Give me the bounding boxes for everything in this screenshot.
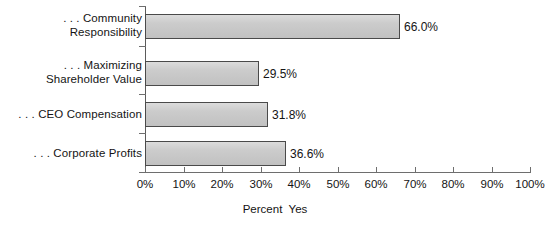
xtick-label: 30% bbox=[249, 178, 272, 190]
category-label-maximizing-shareholder-value: . . . Maximizing Shareholder Value bbox=[46, 59, 142, 86]
bar-community-responsibility bbox=[145, 14, 400, 39]
value-tick bbox=[376, 167, 377, 173]
category-label-corporate-profits: . . . Corporate Profits bbox=[34, 147, 142, 161]
xtick-label: 40% bbox=[287, 178, 310, 190]
xtick-label: 60% bbox=[364, 178, 387, 190]
category-label-ceo-compensation: . . . CEO Compensation bbox=[18, 108, 142, 122]
value-tick bbox=[261, 167, 262, 173]
xtick-label: 10% bbox=[172, 178, 195, 190]
xtick-label: 20% bbox=[210, 178, 233, 190]
value-tick bbox=[492, 167, 493, 173]
x-axis-title: Percent Yes bbox=[0, 203, 550, 216]
value-tick bbox=[222, 167, 223, 173]
value-tick bbox=[415, 167, 416, 173]
category-label-community-responsibility: . . . Community Responsibility bbox=[63, 12, 142, 39]
value-tick bbox=[338, 167, 339, 173]
xtick-label: 50% bbox=[326, 178, 349, 190]
bar-ceo-compensation bbox=[145, 102, 268, 127]
bar-corporate-profits bbox=[145, 141, 286, 166]
value-tick bbox=[184, 167, 185, 173]
category-label-line: . . . Corporate Profits bbox=[34, 147, 142, 161]
value-tick bbox=[145, 167, 146, 173]
category-tick bbox=[139, 6, 146, 7]
xtick-label: 70% bbox=[403, 178, 426, 190]
xtick-label: 90% bbox=[480, 178, 503, 190]
category-label-line: Shareholder Value bbox=[46, 73, 142, 87]
category-label-line: . . . CEO Compensation bbox=[18, 108, 142, 122]
bar-chart: . . . Community Responsibility . . . Max… bbox=[0, 0, 550, 227]
category-tick bbox=[139, 133, 146, 134]
category-label-line: . . . Maximizing bbox=[46, 59, 142, 73]
value-tick bbox=[453, 167, 454, 173]
xtick-label: 80% bbox=[441, 178, 464, 190]
bar-value-label: 29.5% bbox=[263, 68, 297, 80]
xtick-label: 0% bbox=[137, 178, 154, 190]
category-tick bbox=[139, 46, 146, 47]
category-label-line: Responsibility bbox=[63, 26, 142, 40]
value-tick bbox=[299, 167, 300, 173]
category-label-line: . . . Community bbox=[63, 12, 142, 26]
value-tick bbox=[530, 167, 531, 173]
bar-value-label: 31.8% bbox=[272, 109, 306, 121]
xtick-label: 100% bbox=[515, 178, 544, 190]
bar-maximizing-shareholder-value bbox=[145, 61, 259, 86]
bar-value-label: 66.0% bbox=[404, 21, 438, 33]
category-tick bbox=[139, 94, 146, 95]
bar-value-label: 36.6% bbox=[290, 148, 324, 160]
plot-area: . . . Community Responsibility . . . Max… bbox=[0, 0, 550, 227]
